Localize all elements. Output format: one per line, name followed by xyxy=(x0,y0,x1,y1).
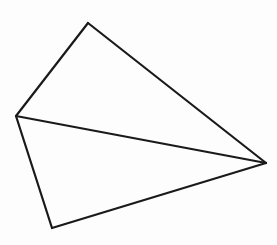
figure-canvas xyxy=(0,0,277,245)
canvas-background xyxy=(0,0,277,245)
geometric-figure xyxy=(0,0,277,245)
